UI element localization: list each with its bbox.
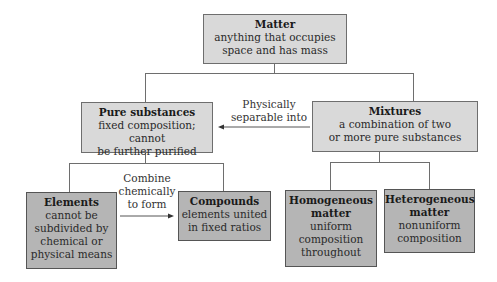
node-desc-line: a combination of two [313, 118, 477, 131]
edge-label-physically-separable: Physically separable into [226, 98, 312, 124]
node-desc-line: cannot be [27, 209, 116, 222]
node-compounds: Compounds elements united in fixed ratio… [178, 191, 271, 241]
node-title: matter [385, 206, 474, 219]
node-matter: Matter anything that occupies space and … [203, 14, 347, 64]
node-desc-line: be further purified [82, 145, 212, 158]
node-homogeneous-matter: Homogeneous matter uniform composition t… [285, 190, 377, 267]
node-desc-line: space and has mass [204, 44, 346, 57]
edge-label-line: Combine [112, 172, 182, 185]
node-title: Heterogeneous [385, 193, 474, 206]
node-desc-line: nonuniform [385, 219, 474, 232]
edge-label-line: to form [112, 198, 182, 211]
node-desc-line: subdivided by [27, 222, 116, 235]
node-desc-line: anything that occupies [204, 31, 346, 44]
node-desc-line: uniform [286, 220, 376, 233]
node-desc-line: in fixed ratios [179, 221, 270, 234]
node-desc-line: throughout [286, 246, 376, 259]
node-title: matter [286, 207, 376, 220]
node-desc-line: composition [286, 233, 376, 246]
edge-label-line: separable into [226, 111, 312, 124]
node-desc-line: composition [385, 232, 474, 245]
node-title: Homogeneous [286, 194, 376, 207]
edge-label-line: Physically [226, 98, 312, 111]
node-title: Pure substances [82, 106, 212, 119]
node-heterogeneous-matter: Heterogeneous matter nonuniform composit… [384, 189, 475, 253]
arrow-left-icon [218, 125, 224, 130]
node-title: Elements [27, 196, 116, 209]
node-desc-line: elements united [179, 208, 270, 221]
node-title: Mixtures [313, 105, 477, 118]
node-desc-line: or more pure substances [313, 131, 477, 144]
node-elements: Elements cannot be subdivided by chemica… [26, 192, 117, 269]
node-desc-line: chemical or [27, 235, 116, 248]
edge-label-line: chemically [112, 185, 182, 198]
edge-label-combine-chemically: Combine chemically to form [112, 172, 182, 211]
node-desc-line: fixed composition; cannot [82, 119, 212, 145]
node-desc-line: physical means [27, 248, 116, 261]
node-title: Compounds [179, 195, 270, 208]
node-title: Matter [204, 18, 346, 31]
arrow-right-icon [168, 214, 174, 219]
node-mixtures: Mixtures a combination of two or more pu… [312, 101, 478, 152]
node-pure-substances: Pure substances fixed composition; canno… [81, 102, 213, 153]
